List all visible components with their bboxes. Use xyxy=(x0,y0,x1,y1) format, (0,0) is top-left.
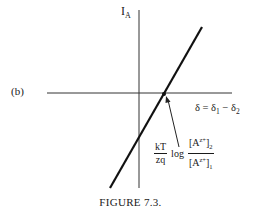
ratio-num-text: [A xyxy=(189,137,200,148)
ratio-denominator: [Az+]1 xyxy=(189,154,213,173)
x-label-a: δ = δ xyxy=(195,102,216,113)
annotation-arrowhead-icon xyxy=(166,96,171,103)
ratio-den-sub: 1 xyxy=(209,164,212,171)
y-axis-label-sub: A xyxy=(125,11,131,20)
ratio-den-text: [A xyxy=(189,158,200,169)
x-axis-label: δ = δ1 − δ2 xyxy=(195,102,240,116)
x-label-sub2: 2 xyxy=(236,107,240,116)
coef-numerator: kT xyxy=(154,141,167,154)
ratio-numerator: [Az+]2 xyxy=(188,134,214,154)
intercept-formula: kT zq log [Az+]2 [Az+]1 xyxy=(154,134,214,174)
log-operator: log xyxy=(171,148,184,159)
y-axis-label: IA xyxy=(121,4,131,20)
panel-label: (b) xyxy=(11,85,24,97)
concentration-ratio: [Az+]2 [Az+]1 xyxy=(188,134,214,174)
x-label-b: − δ xyxy=(220,102,236,113)
figure-caption: FIGURE 7.3. xyxy=(0,196,261,208)
intercept-point xyxy=(162,92,166,96)
ratio-num-sub: 2 xyxy=(209,143,212,150)
coef-denominator: zq xyxy=(156,154,165,166)
coefficient-fraction: kT zq xyxy=(154,141,167,166)
